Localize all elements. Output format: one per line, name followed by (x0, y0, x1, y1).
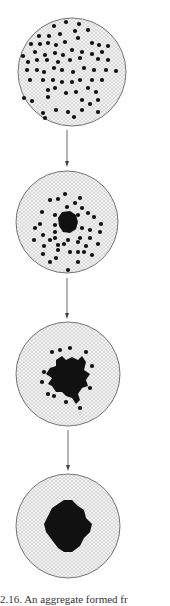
particle (106, 58, 110, 62)
particle (56, 197, 60, 201)
particle (73, 201, 77, 205)
particle (21, 54, 25, 58)
particle (40, 380, 44, 384)
particle (70, 48, 74, 52)
particle (76, 36, 80, 40)
particle (77, 22, 81, 26)
particle (52, 66, 56, 70)
particle (22, 96, 26, 100)
particle (62, 242, 66, 246)
arrowhead-3 (66, 465, 70, 471)
particle (56, 60, 60, 64)
particle (48, 238, 52, 242)
particle (86, 28, 90, 32)
particle (74, 90, 78, 94)
particle (88, 102, 92, 106)
particle (88, 228, 92, 232)
stage-2-nucleation (16, 171, 118, 273)
particle (64, 400, 68, 404)
particle (41, 78, 45, 82)
particle (96, 57, 100, 61)
particle (42, 244, 46, 248)
particle (56, 248, 60, 252)
particle (78, 236, 82, 240)
particle (35, 68, 39, 72)
particle (76, 213, 80, 217)
particle (66, 238, 70, 242)
particle (84, 244, 88, 248)
particle (90, 253, 94, 257)
figure-caption: 2.16. An aggregate formed fr (0, 592, 170, 606)
particle (68, 58, 72, 62)
particle (97, 43, 101, 47)
particle (90, 52, 94, 56)
particle (48, 260, 52, 264)
particle (46, 88, 50, 92)
particle (40, 210, 44, 214)
particle (45, 58, 49, 62)
particle (41, 252, 45, 256)
particle (43, 116, 47, 120)
particle (58, 32, 62, 36)
particle (80, 98, 84, 102)
particle (80, 226, 84, 230)
particle (99, 222, 103, 226)
particle (58, 348, 62, 352)
particle (92, 68, 96, 72)
particle (64, 91, 68, 95)
particle (30, 99, 34, 103)
particle (61, 53, 65, 57)
particle (78, 406, 82, 410)
particle (73, 29, 77, 33)
particle (42, 70, 46, 74)
particle (51, 78, 55, 82)
particle (84, 350, 88, 354)
particle (33, 226, 37, 230)
particle (54, 108, 58, 112)
particle (88, 386, 92, 390)
particle (106, 44, 110, 48)
particle (96, 242, 100, 246)
particle (86, 211, 90, 215)
particle (78, 78, 82, 82)
particle (72, 115, 76, 119)
particle (82, 250, 86, 254)
particle (114, 69, 118, 73)
particle (46, 392, 50, 396)
particle (88, 236, 92, 240)
arrowhead-1 (65, 161, 69, 167)
particle (71, 70, 75, 74)
particle (33, 50, 37, 54)
particle (98, 230, 102, 234)
particle (54, 43, 58, 47)
particle (41, 111, 45, 115)
particle (90, 78, 94, 82)
particle (78, 56, 82, 60)
particle (28, 78, 32, 82)
particle (32, 238, 36, 242)
particle (48, 198, 52, 202)
particle (96, 110, 100, 114)
particle (66, 268, 70, 272)
arrowhead-2 (65, 313, 69, 319)
particle (54, 256, 58, 260)
particle (68, 346, 72, 350)
particle (78, 196, 82, 200)
particle (29, 42, 33, 46)
particle (56, 243, 60, 247)
particle (53, 230, 57, 234)
stage-4-compact-aggregate (16, 474, 120, 578)
particle (38, 222, 42, 226)
particle (68, 250, 72, 254)
particle (94, 90, 98, 94)
particle (63, 192, 67, 196)
particle (38, 42, 42, 46)
particle (76, 260, 80, 264)
particle (37, 34, 41, 38)
particle (52, 24, 56, 28)
particle (43, 53, 47, 57)
particle (60, 80, 64, 84)
particle (80, 206, 84, 210)
particle (90, 364, 94, 368)
